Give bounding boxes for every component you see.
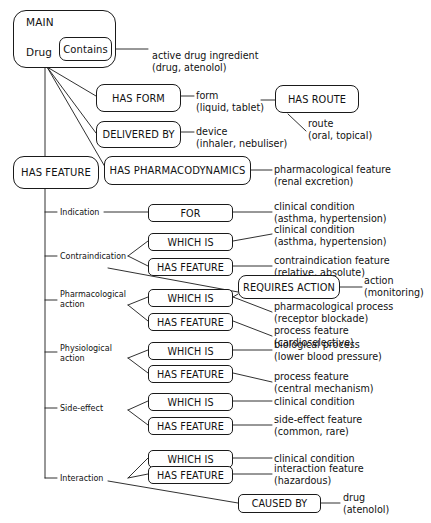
side-effect-has-feature-value: side-effect feature (common, rare) — [274, 414, 362, 437]
main-label: MAIN — [26, 16, 54, 28]
contraindication-which-is-value: clinical condition (asthma, hypertension… — [274, 224, 387, 247]
requires-action-node[interactable]: REQUIRES ACTION — [238, 275, 340, 299]
branch-label-physiological-action: Physiological action — [60, 344, 112, 363]
diagram-canvas: MAIN Drug Contains active drug ingredien… — [0, 0, 431, 523]
interaction-has-feature-node[interactable]: HAS FEATURE — [148, 466, 233, 484]
physiological-which-is-value: biological process (lower blood pressure… — [274, 339, 382, 362]
branch-label-interaction: Interaction — [60, 474, 103, 484]
delivered-by-node[interactable]: DELIVERED BY — [96, 121, 181, 148]
active-ingredient-value: active drug ingredient (drug, atenolol) — [152, 50, 258, 73]
side-effect-which-is-node[interactable]: WHICH IS — [148, 393, 233, 411]
pharmacological-which-is-node[interactable]: WHICH IS — [148, 289, 233, 307]
branch-label-contraindication: Contraindication — [60, 252, 126, 262]
contains-node[interactable]: Contains — [59, 37, 112, 61]
interaction-has-feature-value: interaction feature (hazardous) — [274, 463, 364, 486]
physiological-which-is-node[interactable]: WHICH IS — [148, 342, 233, 360]
physiological-has-feature-value: process feature (central mechanism) — [274, 371, 374, 394]
drug-label: Drug — [26, 46, 52, 58]
indication-for-value: clinical condition (asthma, hypertension… — [274, 201, 387, 224]
has-pharmacodynamics-value: pharmacological feature (renal excretion… — [274, 164, 391, 187]
has-feature-root-node[interactable]: HAS FEATURE — [13, 156, 99, 189]
has-route-node[interactable]: HAS ROUTE — [275, 85, 359, 113]
has-route-value: route (oral, topical) — [308, 118, 372, 141]
branch-label-pharmacological-action: Pharmacological action — [60, 290, 126, 309]
pharmacological-has-feature-node[interactable]: HAS FEATURE — [148, 313, 233, 331]
contraindication-has-feature-node[interactable]: HAS FEATURE — [148, 258, 233, 276]
has-form-value: form (liquid, tablet) — [196, 90, 264, 113]
has-form-node[interactable]: HAS FORM — [96, 84, 181, 112]
branch-label-side-effect: Side-effect — [60, 404, 103, 414]
side-effect-which-is-value: clinical condition — [274, 396, 355, 408]
caused-by-node[interactable]: CAUSED BY — [238, 494, 321, 513]
side-effect-has-feature-node[interactable]: HAS FEATURE — [148, 417, 233, 435]
indication-for-node[interactable]: FOR — [148, 204, 233, 222]
caused-by-value: drug (atenolol) — [343, 492, 389, 515]
physiological-has-feature-node[interactable]: HAS FEATURE — [148, 365, 233, 383]
delivered-by-value: device (inhaler, nebuliser) — [196, 126, 287, 149]
requires-action-value: action (monitoring) — [364, 275, 424, 298]
pharmacological-which-is-value: pharmacological process (receptor blocka… — [274, 301, 393, 324]
has-pharmacodynamics-node[interactable]: HAS PHARMACODYNAMICS — [104, 156, 251, 185]
branch-label-indication: Indication — [60, 208, 99, 218]
contraindication-which-is-node[interactable]: WHICH IS — [148, 233, 233, 251]
